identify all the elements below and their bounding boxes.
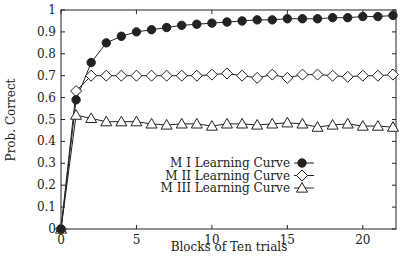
filled-circle-marker	[298, 15, 306, 23]
plot-border	[61, 10, 396, 229]
open-diamond-marker	[101, 70, 112, 81]
x-tick-label: 5	[133, 233, 141, 247]
series-layer	[56, 11, 399, 234]
y-tick-label: 0.1	[37, 200, 56, 214]
open-diamond-marker	[146, 70, 157, 81]
filled-circle-marker	[57, 225, 65, 233]
y-tick-label: 0.3	[37, 156, 56, 170]
filled-circle-marker	[253, 16, 261, 24]
filled-circle-marker	[178, 21, 186, 29]
open-triangle-marker	[116, 116, 127, 126]
open-diamond-marker	[312, 69, 323, 80]
open-triangle-marker	[71, 110, 82, 120]
filled-circle-marker	[223, 18, 231, 26]
series-open-diamond	[61, 74, 393, 229]
open-diamond-marker	[131, 70, 142, 81]
open-diamond-marker	[191, 70, 202, 81]
filled-circle-marker	[344, 13, 352, 21]
filled-circle-marker	[102, 39, 110, 47]
y-tick-label: 0.6	[37, 91, 56, 105]
filled-circle-marker	[132, 28, 140, 36]
open-diamond-marker	[297, 69, 308, 80]
learning-curve-chart: 00.10.20.30.40.50.60.70.80.91 05101520 M…	[0, 0, 406, 269]
open-diamond-marker	[116, 70, 127, 81]
y-axis-label: Prob. Correct	[4, 78, 18, 161]
open-diamond-marker	[387, 69, 398, 80]
open-triangle-marker	[297, 183, 308, 193]
y-tick-label: 0.4	[37, 134, 56, 148]
open-triangle-marker	[237, 118, 248, 128]
x-tick-label: 20	[355, 233, 370, 247]
open-triangle-marker	[282, 117, 293, 127]
legend-label: M III Learning Curve	[161, 181, 290, 195]
y-tick-label: 0.8	[37, 47, 56, 61]
open-diamond-marker	[221, 68, 232, 79]
open-diamond-marker	[252, 72, 263, 83]
y-tick-label: 0.7	[37, 69, 56, 83]
filled-circle-marker	[162, 23, 170, 31]
filled-circle-marker	[268, 16, 276, 24]
open-triangle-marker	[221, 118, 232, 128]
open-triangle-marker	[176, 118, 187, 128]
open-diamond-marker	[357, 70, 368, 81]
open-triangle-marker	[372, 121, 383, 131]
filled-circle-marker	[193, 20, 201, 28]
filled-circle-marker	[87, 58, 95, 66]
series-markers-open-diamond	[56, 68, 399, 234]
y-tick-label: 0.9	[37, 25, 56, 39]
filled-circle-marker	[298, 159, 306, 167]
plot-frame	[61, 10, 396, 229]
open-diamond-marker	[372, 70, 383, 81]
y-tick-label: 0.2	[37, 178, 56, 192]
filled-circle-marker	[147, 26, 155, 34]
open-diamond-marker	[282, 72, 293, 83]
open-diamond-marker	[267, 69, 278, 80]
filled-circle-marker	[359, 12, 367, 20]
x-axis-label: Blocks of Ten trials	[171, 240, 288, 254]
filled-circle-marker	[72, 96, 80, 104]
legend: M I Learning CurveM II Learning CurveM I…	[161, 156, 314, 195]
filled-circle-marker	[389, 11, 397, 19]
filled-circle-marker	[328, 13, 336, 21]
filled-circle-marker	[313, 15, 321, 23]
open-diamond-marker	[176, 70, 187, 81]
open-triangle-marker	[342, 118, 353, 128]
open-diamond-marker	[327, 70, 338, 81]
open-triangle-marker	[131, 116, 142, 126]
filled-circle-marker	[117, 32, 125, 40]
y-tick-label: 1	[48, 3, 56, 17]
y-tick-label: 0.5	[37, 113, 56, 127]
open-diamond-marker	[161, 70, 172, 81]
open-diamond-marker	[297, 170, 308, 181]
open-diamond-marker	[237, 70, 248, 81]
open-diamond-marker	[206, 69, 217, 80]
series-line	[61, 74, 393, 229]
filled-circle-marker	[374, 12, 382, 20]
open-diamond-marker	[342, 71, 353, 82]
open-triangle-marker	[191, 118, 202, 128]
filled-circle-marker	[238, 17, 246, 25]
filled-circle-marker	[208, 19, 216, 27]
filled-circle-marker	[283, 15, 291, 23]
